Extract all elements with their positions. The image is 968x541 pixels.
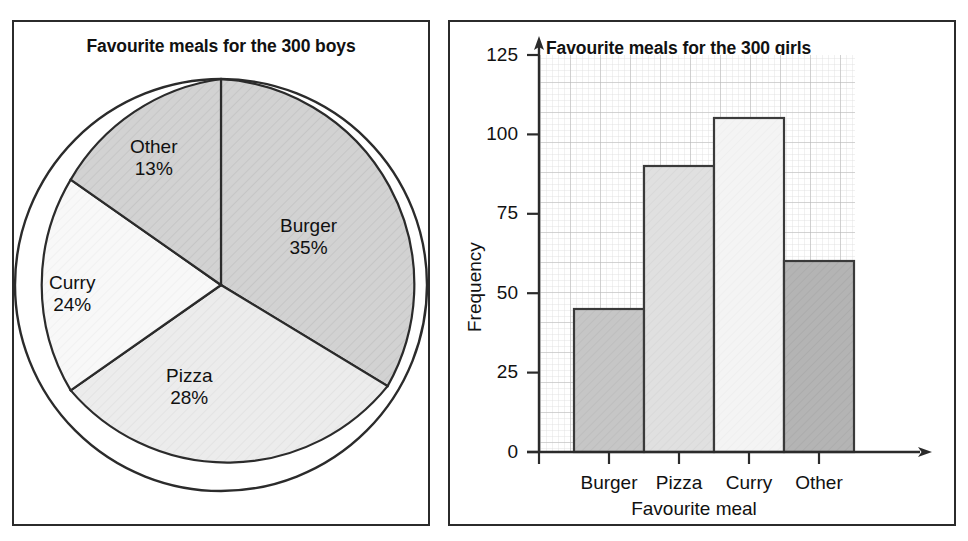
bar-chart-plot: 0 25 50 75 100 125 Burger Pizza Curry Ot…: [450, 22, 954, 524]
pie-label-other-name: Other: [130, 136, 178, 157]
bar-panel: Favourite meals for the 300 girls: [448, 20, 956, 526]
pie-chart-plot: Burger 35% Pizza 28% Curry 24% Other 13%: [14, 60, 428, 520]
pie-label-burger-name: Burger: [280, 215, 337, 236]
bar-curry: [714, 118, 784, 452]
bar-pizza: [644, 166, 714, 452]
y-axis-tick-label-75: 75: [466, 202, 518, 224]
y-axis-title: Frequency: [464, 242, 486, 332]
x-axis-title: Favourite meal: [589, 498, 799, 520]
y-axis-tick-label-100: 100: [466, 123, 518, 145]
pie-label-other: Other 13%: [130, 136, 178, 180]
pie-label-other-value: 13%: [130, 158, 178, 180]
bar-burger: [574, 309, 644, 452]
pie-label-curry-value: 24%: [49, 294, 95, 316]
pie-chart-title: Favourite meals for the 300 boys: [14, 36, 428, 57]
figure-container: Favourite meals for the 300 boys: [0, 0, 968, 541]
pie-label-pizza-value: 28%: [166, 387, 212, 409]
bar-other: [784, 261, 854, 452]
x-axis-label-other: Other: [769, 472, 869, 494]
pie-label-burger: Burger 35%: [280, 215, 337, 259]
pie-label-curry-name: Curry: [49, 272, 95, 293]
y-axis-tick-label-125: 125: [466, 44, 518, 66]
y-axis-tick-label-25: 25: [466, 361, 518, 383]
pie-label-burger-value: 35%: [280, 237, 337, 259]
pie-label-pizza: Pizza 28%: [166, 365, 212, 409]
pie-label-pizza-name: Pizza: [166, 365, 212, 386]
x-axis-arrow-icon: [918, 447, 932, 457]
bar-svg: [450, 22, 954, 524]
pie-panel: Favourite meals for the 300 boys: [12, 20, 430, 526]
y-axis-tick-label-0: 0: [466, 441, 518, 463]
pie-label-curry: Curry 24%: [49, 272, 95, 316]
